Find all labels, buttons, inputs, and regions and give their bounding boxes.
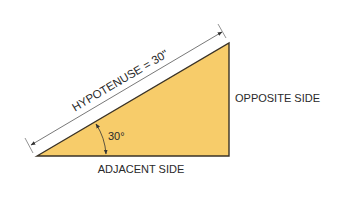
opposite-side-label: OPPOSITE SIDE: [235, 92, 320, 104]
dimension-tick-left: [25, 138, 33, 153]
right-triangle-diagram: HYPOTENUSE = 30" 30° OPPOSITE SIDE ADJAC…: [0, 0, 340, 216]
triangle: [37, 43, 229, 156]
adjacent-side-label: ADJACENT SIDE: [98, 163, 185, 175]
angle-label: 30°: [108, 130, 125, 142]
dimension-tick-right: [218, 24, 226, 38]
